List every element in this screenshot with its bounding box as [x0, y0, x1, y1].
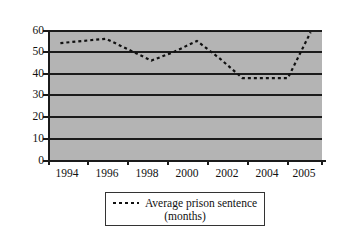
chart-figure: 60 50 40 30 20 10 0 1994 1996 1998 2000 … — [0, 0, 350, 244]
chart-legend: Average prison sentence (months) — [105, 192, 265, 226]
x-tick-mark — [48, 160, 50, 165]
x-tick-mark — [127, 160, 129, 165]
y-tick-label-20: 20 — [18, 111, 44, 122]
y-tick-label-10: 10 — [18, 133, 44, 144]
x-tick-mark — [167, 160, 169, 165]
legend-entry: Average prison sentence — [106, 197, 264, 209]
x-tick-mark — [287, 160, 289, 165]
y-tick-label-60: 60 — [18, 25, 44, 36]
gridline-30 — [49, 94, 322, 96]
gridline-50 — [49, 51, 322, 53]
gridline-20 — [49, 116, 322, 118]
x-tick-mark — [87, 160, 89, 165]
gridline-10 — [49, 138, 322, 140]
dashed-line-swatch-icon — [113, 199, 139, 207]
y-axis-tick-labels: 60 50 40 30 20 10 0 — [12, 0, 44, 244]
y-tick-label-0: 0 — [18, 155, 44, 166]
x-tick-mark — [207, 160, 209, 165]
legend-label-line-2: (months) — [164, 210, 206, 222]
y-tick-label-40: 40 — [18, 68, 44, 79]
x-tick-mark — [247, 160, 249, 165]
x-tick-label-2005: 2005 — [279, 167, 329, 179]
gridline-40 — [49, 73, 322, 75]
y-tick-label-30: 30 — [18, 89, 44, 100]
plot-area — [49, 30, 322, 161]
legend-label-line-1: Average prison sentence — [145, 197, 257, 209]
gridline-60 — [49, 30, 322, 32]
x-tick-mark — [321, 160, 323, 165]
y-tick-label-50: 50 — [18, 46, 44, 57]
